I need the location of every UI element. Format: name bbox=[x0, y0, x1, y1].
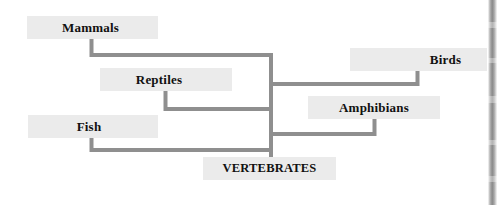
branch-mammals bbox=[92, 39, 272, 55]
taxon-label-vertebrates: VERTEBRATES bbox=[223, 161, 317, 176]
taxon-label-reptiles: Reptiles bbox=[136, 72, 182, 88]
branch-amphibians bbox=[271, 119, 375, 134]
taxon-label-fish: Fish bbox=[77, 119, 102, 135]
taxon-label-birds: Birds bbox=[430, 52, 461, 68]
branch-fish bbox=[92, 138, 272, 150]
page-gutter-strip bbox=[488, 0, 497, 205]
taxon-box-amphibians[interactable]: Amphibians bbox=[308, 96, 440, 119]
taxon-box-birds[interactable]: Birds bbox=[350, 48, 487, 71]
taxon-box-vertebrates[interactable]: VERTEBRATES bbox=[203, 157, 336, 180]
taxon-label-amphibians: Amphibians bbox=[339, 100, 409, 116]
taxon-box-reptiles[interactable]: Reptiles bbox=[100, 68, 232, 91]
branch-birds bbox=[271, 71, 418, 84]
taxon-box-fish[interactable]: Fish bbox=[28, 115, 158, 138]
figure-canvas: Mammals Birds Reptiles Amphibians Fish V… bbox=[0, 0, 501, 205]
taxon-box-mammals[interactable]: Mammals bbox=[27, 16, 158, 39]
branch-reptiles bbox=[166, 91, 272, 109]
taxon-label-mammals: Mammals bbox=[62, 20, 119, 36]
